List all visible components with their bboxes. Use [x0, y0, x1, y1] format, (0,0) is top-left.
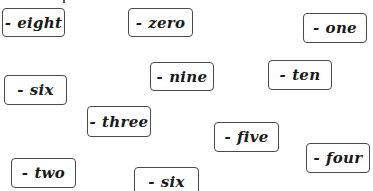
- word-text: one: [326, 19, 357, 37]
- word-card-two[interactable]: -two: [11, 158, 76, 188]
- word-text: eight: [17, 14, 62, 32]
- word-card-five[interactable]: -five: [214, 122, 279, 152]
- dash-prefix: -: [314, 149, 321, 167]
- dash-prefix: -: [22, 164, 29, 182]
- word-card-board: -eight -zero -one -nine -ten -six -three…: [0, 0, 373, 191]
- word-card-three[interactable]: -three: [87, 106, 151, 137]
- word-text: five: [237, 128, 269, 146]
- word-text: four: [326, 149, 362, 167]
- word-label: -six: [17, 81, 54, 99]
- word-card-six[interactable]: -six: [4, 75, 67, 105]
- word-card-eight[interactable]: -eight: [2, 8, 65, 37]
- word-card-four[interactable]: -four: [306, 143, 370, 173]
- word-label: -nine: [157, 68, 208, 86]
- dash-prefix: -: [148, 173, 155, 191]
- word-label: -zero: [136, 14, 186, 32]
- word-text: six: [161, 173, 185, 191]
- word-label: -eight: [5, 14, 63, 32]
- word-text: nine: [169, 68, 207, 86]
- word-label: -four: [314, 149, 363, 167]
- dash-prefix: -: [90, 113, 97, 131]
- word-card-ten[interactable]: -ten: [268, 60, 332, 90]
- word-text: zero: [148, 14, 185, 32]
- word-label: -one: [313, 19, 357, 37]
- stray-mark: [63, 0, 65, 3]
- word-text: ten: [292, 66, 320, 84]
- word-card-nine[interactable]: -nine: [150, 62, 214, 91]
- word-text: three: [102, 113, 148, 131]
- dash-prefix: -: [313, 19, 320, 37]
- word-text: six: [30, 81, 54, 99]
- word-label: -two: [22, 164, 65, 182]
- word-label: -six: [148, 173, 185, 191]
- word-card-one[interactable]: -one: [303, 13, 367, 43]
- word-card-six-second[interactable]: -six: [134, 167, 199, 191]
- word-card-zero[interactable]: -zero: [128, 8, 193, 37]
- word-label: -five: [224, 128, 268, 146]
- dash-prefix: -: [5, 14, 12, 32]
- word-text: two: [34, 164, 65, 182]
- dash-prefix: -: [136, 14, 143, 32]
- dash-prefix: -: [224, 128, 231, 146]
- word-label: -three: [90, 113, 149, 131]
- dash-prefix: -: [280, 66, 287, 84]
- dash-prefix: -: [17, 81, 24, 99]
- dash-prefix: -: [157, 68, 164, 86]
- word-label: -ten: [280, 66, 321, 84]
